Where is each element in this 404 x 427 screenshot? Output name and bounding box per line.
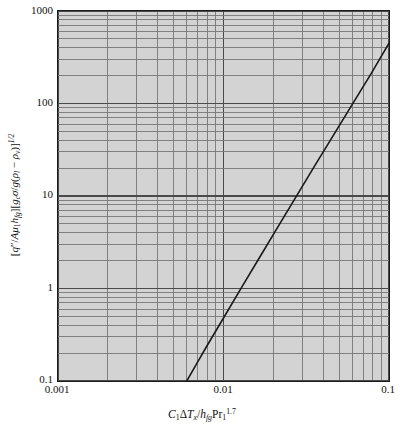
data-curve xyxy=(58,11,389,381)
plot-area xyxy=(57,10,390,382)
y-tick-100: 100 xyxy=(4,97,53,108)
x-axis-tick-labels: 0.001 0.01 0.1 xyxy=(0,384,404,400)
chart-figure: 1000 100 10 1 0.1 0.001 0.01 0.1 [q″/Aμ1… xyxy=(0,0,404,427)
x-axis-title-text: C1ΔTx/hfgPr11.7 xyxy=(168,408,236,420)
y-tick-1: 1 xyxy=(4,282,53,293)
x-axis-title: C1ΔTx/hfgPr11.7 xyxy=(0,404,404,422)
y-axis-tick-labels: 1000 100 10 1 0.1 xyxy=(0,0,53,427)
y-tick-10: 10 xyxy=(4,189,53,200)
x-tick-0.01: 0.01 xyxy=(190,384,256,395)
x-tick-0.001: 0.001 xyxy=(24,384,90,395)
x-tick-0.1: 0.1 xyxy=(355,384,404,395)
y-tick-1000: 1000 xyxy=(4,5,53,16)
